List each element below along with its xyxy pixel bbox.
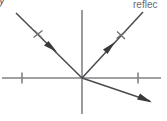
incident-ray-group bbox=[16, 13, 82, 78]
reflected-ray-arrowhead bbox=[103, 42, 115, 54]
ray-diagram-canvas bbox=[0, 0, 167, 121]
ray-diagram-figure: y reflec bbox=[0, 0, 167, 121]
reflected-ray-label: reflec bbox=[133, 0, 157, 10]
refracted-ray-arrowhead bbox=[137, 94, 152, 103]
y-axis-label: y bbox=[0, 0, 5, 6]
reflected-ray-group bbox=[82, 12, 143, 78]
refracted-ray-group bbox=[82, 78, 152, 103]
axes-group bbox=[2, 10, 161, 114]
